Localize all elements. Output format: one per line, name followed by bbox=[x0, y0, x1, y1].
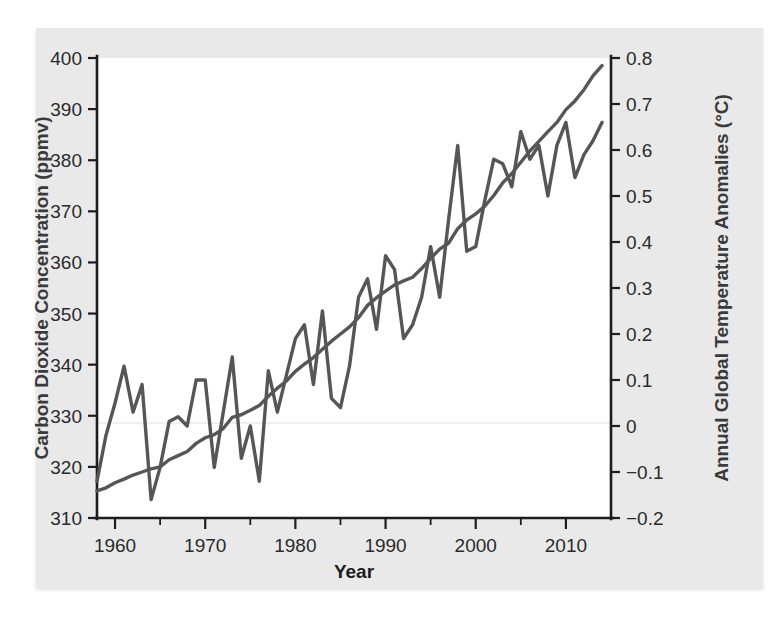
right-tick-label: 0.4 bbox=[626, 232, 653, 253]
right-tick-label: 0.5 bbox=[626, 186, 652, 207]
left-tick-label: 360 bbox=[50, 252, 82, 273]
right-tick-label: 0.1 bbox=[626, 370, 652, 391]
right-tick-label: 0.2 bbox=[626, 324, 652, 345]
plot-background bbox=[97, 58, 611, 518]
left-tick-label: 330 bbox=[50, 406, 82, 427]
left-axis-ticks: 310320330340350360370380390400 bbox=[50, 48, 97, 529]
right-tick-label: 0.7 bbox=[626, 94, 652, 115]
left-axis-title: Carbon Dioxide Concentration (ppmv) bbox=[31, 116, 52, 459]
figure-root: 310320330340350360370380390400 −0.2−0.10… bbox=[0, 0, 781, 632]
left-tick-label: 320 bbox=[50, 457, 82, 478]
chart-canvas: 310320330340350360370380390400 −0.2−0.10… bbox=[0, 0, 781, 632]
left-tick-label: 390 bbox=[50, 99, 82, 120]
right-tick-label: 0.6 bbox=[626, 140, 652, 161]
x-tick-label: 1980 bbox=[274, 535, 316, 556]
left-tick-label: 310 bbox=[50, 508, 82, 529]
right-tick-label: −0.1 bbox=[626, 462, 664, 483]
left-tick-label: 370 bbox=[50, 201, 82, 222]
right-axis-title: Annual Global Temperature Anomalies (°C) bbox=[711, 94, 732, 482]
x-tick-label: 1990 bbox=[364, 535, 406, 556]
left-tick-label: 340 bbox=[50, 355, 82, 376]
right-tick-label: 0.3 bbox=[626, 278, 652, 299]
right-tick-label: 0.8 bbox=[626, 48, 652, 69]
x-tick-label: 2010 bbox=[545, 535, 587, 556]
left-tick-label: 400 bbox=[50, 48, 82, 69]
x-tick-label: 1970 bbox=[184, 535, 226, 556]
x-tick-label: 1960 bbox=[94, 535, 136, 556]
x-axis-title: Year bbox=[334, 561, 375, 582]
left-tick-label: 380 bbox=[50, 150, 82, 171]
right-tick-label: 0 bbox=[626, 416, 637, 437]
right-axis-ticks: −0.2−0.100.10.20.30.40.50.60.70.8 bbox=[611, 48, 664, 529]
right-tick-label: −0.2 bbox=[626, 508, 664, 529]
x-axis-ticks: 196019701980199020002010 bbox=[94, 518, 587, 556]
x-tick-label: 2000 bbox=[455, 535, 497, 556]
left-tick-label: 350 bbox=[50, 304, 82, 325]
